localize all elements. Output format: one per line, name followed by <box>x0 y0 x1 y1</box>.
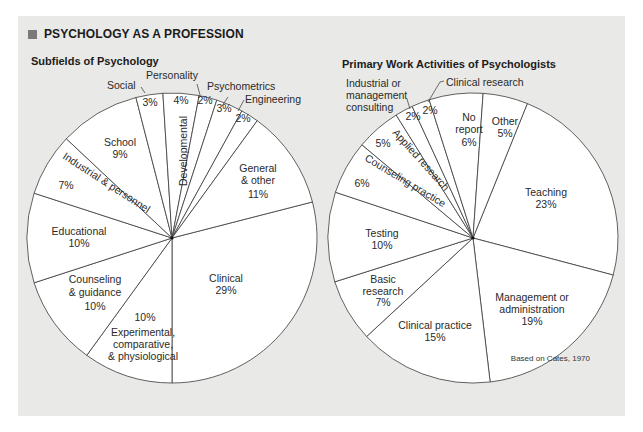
pct-counseling: 10% <box>84 300 105 312</box>
pct-general: 11% <box>248 188 268 200</box>
pct-no-report: 6% <box>461 136 476 148</box>
pct-experimental: 10% <box>134 311 155 323</box>
label-industrial-consulting: Industrial or <box>346 77 401 89</box>
source-note: Based on Cates, 1970 <box>511 354 590 363</box>
label-industrial-consulting-2: management <box>346 89 407 101</box>
pct-clinical-practice: 15% <box>424 331 445 343</box>
label-experimental-2: comparative, <box>113 338 173 350</box>
label-psychometrics: Psychometrics <box>207 80 275 92</box>
label-experimental-3: & physiological <box>108 350 178 362</box>
label-no-report: No <box>462 111 476 123</box>
pie-charts: Social Personality Psychometrics Enginee… <box>0 0 643 432</box>
pct-applied-research: 5% <box>375 137 390 149</box>
label-industrial-consulting-3: consulting <box>346 101 393 113</box>
pie-center-dot <box>471 236 474 239</box>
pct-counseling-practice: 6% <box>354 177 369 189</box>
pct-testing: 10% <box>371 239 392 251</box>
label-clinical-practice: Clinical practice <box>398 319 472 331</box>
pct-other: 5% <box>497 127 512 139</box>
label-educational: Educational <box>52 225 107 237</box>
pct-industrial-consulting: 2% <box>405 110 420 122</box>
pct-teaching: 23% <box>535 198 556 210</box>
label-management: Management or <box>495 291 569 303</box>
label-engineering: Engineering <box>245 93 301 105</box>
pct-developmental: 4% <box>173 94 188 106</box>
pct-psychometrics: 3% <box>216 102 231 114</box>
pct-management: 19% <box>521 315 542 327</box>
label-general: General <box>239 162 276 174</box>
label-counseling-2: & guidance <box>69 286 122 298</box>
label-clinical: Clinical <box>209 272 243 284</box>
label-experimental: Experimental, <box>111 326 175 338</box>
pct-basic-research: 7% <box>375 296 390 308</box>
pct-engineering: 2% <box>235 112 250 124</box>
label-no-report-2: report <box>455 123 483 135</box>
pct-personality: 2% <box>197 94 212 106</box>
label-testing: Testing <box>365 227 398 239</box>
pct-educational: 10% <box>68 237 89 249</box>
label-developmental: Developmental <box>177 116 189 186</box>
pct-social: 3% <box>142 96 157 108</box>
pct-clinical: 29% <box>215 284 236 296</box>
label-counseling: Counseling <box>69 273 122 285</box>
label-clinical-research: Clinical research <box>446 76 524 88</box>
pie-center-dot <box>170 236 173 239</box>
pct-clinical-research: 2% <box>422 104 437 116</box>
pct-industrial: 7% <box>58 179 73 191</box>
label-general-2: & other <box>241 174 275 186</box>
label-personality: Personality <box>146 69 199 81</box>
label-basic-research: Basic <box>370 273 396 285</box>
label-school: School <box>104 136 136 148</box>
label-other: Other <box>492 115 519 127</box>
label-social: Social <box>107 79 136 91</box>
pct-school: 9% <box>112 148 127 160</box>
label-teaching: Teaching <box>525 186 567 198</box>
label-management-2: administration <box>499 303 565 315</box>
